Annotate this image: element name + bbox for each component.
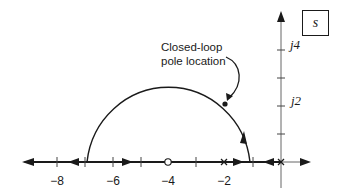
real-tick-label-minus6: −6 — [106, 175, 120, 187]
closed-loop-pole-marker — [222, 101, 227, 106]
annotation-line-1: Closed-loop — [161, 40, 226, 54]
closed-loop-annotation: Closed-loop pole location — [161, 40, 226, 68]
annotation-pointer — [226, 57, 239, 98]
axis-arrow-right-icon — [300, 158, 311, 166]
open-loop-zero-minus4 — [165, 159, 171, 165]
root-locus-arc — [87, 87, 250, 162]
real-tick-label-minus4: −4 — [161, 175, 175, 187]
root-locus-diagram: s Closed-loop pole location j4 j2 −8 −6 … — [0, 0, 344, 196]
imag-tick-label-j2: j2 — [291, 94, 301, 107]
arrow-right-icon — [233, 158, 244, 166]
real-tick-label-minus2: −2 — [217, 175, 231, 187]
s-plane-label: s — [302, 10, 329, 36]
arrow-left-icon — [22, 158, 34, 166]
arrow-left-icon — [263, 158, 274, 166]
arrow-right-icon — [122, 158, 133, 166]
imag-tick-label-j4: j4 — [290, 38, 300, 51]
axis-arrow-up-icon — [277, 11, 285, 22]
real-tick-label-minus8: −8 — [50, 175, 64, 187]
arrow-left-icon — [68, 158, 79, 166]
annotation-line-2: pole location — [161, 54, 226, 68]
